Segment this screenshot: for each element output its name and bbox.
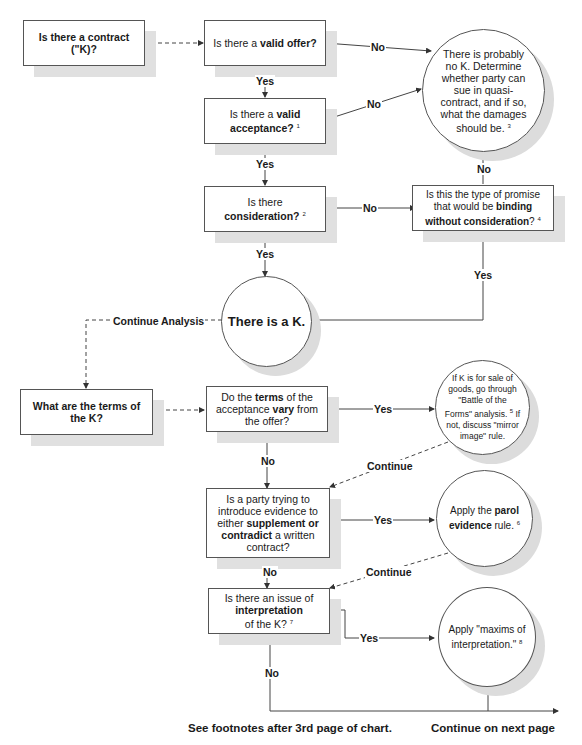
edge-label-battle-continue: Continue	[366, 460, 414, 472]
node-text: Is thereconsideration? 2	[224, 196, 306, 222]
edge-label-consideration-yes: Yes	[255, 248, 275, 260]
node-valid-acceptance: Is there a validacceptance? 1	[204, 98, 326, 144]
node-parol-question: Is a party trying to introduce evidence …	[206, 488, 330, 558]
node-parol-rule: Apply the parol evidence rule. 6	[436, 470, 533, 567]
node-interpretation-question: Is there an issue of interpretation of t…	[208, 588, 330, 634]
node-text: Is there an issue of interpretation of t…	[215, 592, 323, 630]
edge-label-vary-yes: Yes	[373, 403, 393, 415]
node-text: There is a K.	[228, 316, 305, 328]
node-valid-offer: Is there a valid offer?	[204, 20, 326, 66]
node-text: Is there a contract ("K)?	[30, 31, 138, 55]
edge-label-offer-no: No	[370, 41, 386, 53]
node-binding-without-consideration: Is this the type of promise that would b…	[412, 185, 554, 231]
node-text: Is there a valid offer?	[213, 37, 316, 49]
node-terms-vary: Do the terms of the acceptance vary from…	[206, 386, 328, 432]
node-text: Apply the parol evidence rule. 6	[445, 505, 524, 532]
node-consideration: Is thereconsideration? 2	[204, 186, 326, 232]
edge-label-parol-no: No	[262, 566, 278, 578]
node-text: Is there a validacceptance? 1	[230, 108, 301, 134]
edge-label-continue-analysis: Continue Analysis	[112, 315, 205, 327]
edge-label-acceptance-no: No	[366, 98, 382, 110]
node-text: What are the terms of the K?	[27, 400, 146, 424]
node-is-there-contract: Is there a contract ("K)?	[23, 20, 145, 66]
edge-label-binding-yes: Yes	[473, 269, 493, 281]
node-text: Is this the type of promise that would b…	[419, 189, 547, 228]
node-text: There is probably no K. Determine whethe…	[437, 48, 530, 134]
node-battle-of-forms: If K is for sale of goods, go through "B…	[435, 360, 530, 455]
edge-label-offer-yes: Yes	[255, 75, 275, 87]
node-text: Do the terms of the acceptance vary from…	[213, 391, 321, 427]
edge-label-acceptance-yes: Yes	[255, 158, 275, 170]
footer-footnotes-note: See footnotes after 3rd page of chart.	[188, 722, 392, 734]
edge-label-parol-yes: Yes	[373, 514, 393, 526]
footer-continue-next-page: Continue on next page	[431, 722, 555, 734]
flowchart: Is there a contract ("K)? Is there a val…	[0, 0, 582, 745]
node-text: Is a party trying to introduce evidence …	[213, 493, 323, 553]
edge-label-binding-no: No	[476, 163, 492, 175]
node-terms-of-k: What are the terms of the K?	[20, 389, 153, 435]
node-text: If K is for sale of goods, go through "B…	[444, 373, 521, 442]
edge-label-interpretation-yes: Yes	[359, 632, 379, 644]
node-maxims: Apply "maxims of interpretation." 8	[438, 587, 536, 687]
node-no-contract: There is probably no K. Determine whethe…	[422, 29, 545, 152]
edge-label-parol-continue: Continue	[365, 566, 413, 578]
node-there-is-k: There is a K.	[221, 276, 312, 367]
node-text: Apply "maxims of interpretation." 8	[447, 624, 527, 651]
edge-label-vary-no: No	[260, 455, 276, 467]
edge-label-interpretation-no: No	[264, 667, 280, 679]
edge-label-consideration-no: No	[362, 202, 378, 214]
